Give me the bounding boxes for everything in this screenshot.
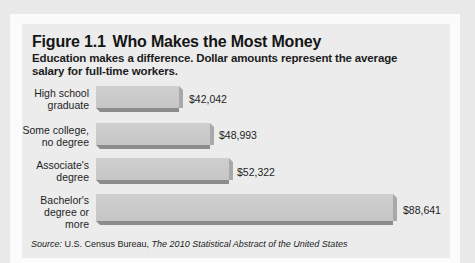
- bar-face: [96, 194, 393, 221]
- bar-bottom: [96, 180, 229, 184]
- source-note: Source: U.S. Census Bureau, The 2010 Sta…: [31, 239, 347, 249]
- category-label: Bachelor's degree or more: [9, 194, 89, 230]
- category-label-line: degree: [9, 171, 89, 183]
- value-label: $88,641: [403, 204, 441, 216]
- figure-title-text: Who Makes the Most Money: [113, 33, 322, 50]
- bar-side: [393, 194, 397, 221]
- category-label: High school graduate: [9, 87, 89, 111]
- source-publisher: U.S. Census Bureau,: [65, 239, 150, 249]
- bar-high-school: [96, 86, 179, 108]
- category-label-line: degree or: [9, 206, 89, 218]
- figure-number: Figure 1.1: [32, 33, 106, 50]
- figure-title: Figure 1.1Who Makes the Most Money: [32, 33, 321, 51]
- value-label: $48,993: [219, 129, 257, 141]
- bar-face: [96, 86, 179, 108]
- category-label-line: graduate: [9, 99, 89, 111]
- source-title: The 2010 Statistical Abstract of the Uni…: [152, 239, 348, 249]
- bar-some-college: [96, 123, 210, 145]
- category-label: Some college, no degree: [9, 124, 89, 148]
- bar-face: [96, 158, 229, 180]
- category-label-line: Associate's: [9, 159, 89, 171]
- figure-subtitle: Education makes a difference. Dollar amo…: [32, 52, 412, 78]
- value-label: $42,042: [189, 93, 227, 105]
- category-label-line: Some college,: [9, 124, 89, 136]
- bar-bachelors: [96, 194, 393, 221]
- category-label-line: more: [9, 218, 89, 230]
- bar-face: [96, 123, 210, 145]
- bar-bottom: [96, 221, 393, 225]
- bar-bottom: [96, 108, 179, 112]
- bar-bottom: [96, 145, 210, 149]
- bar-associates: [96, 158, 229, 180]
- category-label: Associate's degree: [9, 159, 89, 183]
- category-label-line: no degree: [9, 136, 89, 148]
- category-label-line: Bachelor's: [9, 194, 89, 206]
- value-label: $52,322: [237, 166, 275, 178]
- source-label: Source:: [31, 239, 62, 249]
- category-label-line: High school: [9, 87, 89, 99]
